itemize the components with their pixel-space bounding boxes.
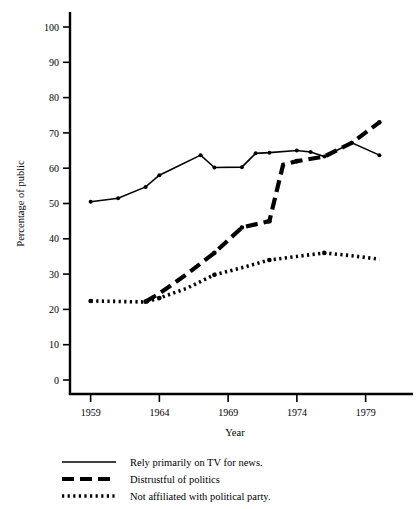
series-2 bbox=[143, 120, 381, 304]
legend-item: Not affiliated with political party. bbox=[62, 491, 271, 502]
legend-item: Rely primarily on TV for news. bbox=[62, 457, 263, 468]
data-point bbox=[309, 150, 313, 154]
data-point bbox=[212, 251, 217, 256]
data-point bbox=[157, 173, 161, 177]
legend-label: Distrustful of politics bbox=[130, 474, 220, 485]
legend: Rely primarily on TV for news.Distrustfu… bbox=[62, 457, 271, 502]
y-tick-label: 20 bbox=[49, 304, 59, 315]
x-axis-title: Year bbox=[225, 427, 245, 438]
data-point bbox=[254, 151, 258, 155]
legend-label: Not affiliated with political party. bbox=[130, 491, 271, 502]
data-point bbox=[212, 165, 216, 169]
y-tick-label: 0 bbox=[54, 375, 59, 386]
line-chart: 0102030405060708090100195919641969197419… bbox=[0, 0, 418, 509]
x-tick-label: 1979 bbox=[356, 407, 376, 418]
y-tick-label: 100 bbox=[44, 22, 59, 33]
series-line bbox=[146, 122, 380, 301]
legend-label: Rely primarily on TV for news. bbox=[130, 457, 263, 468]
series-3 bbox=[88, 251, 379, 304]
data-point bbox=[377, 120, 382, 125]
y-tick-label: 90 bbox=[49, 57, 59, 68]
data-point bbox=[267, 219, 272, 224]
data-point bbox=[144, 185, 148, 189]
data-point bbox=[89, 200, 93, 204]
data-point bbox=[267, 151, 271, 155]
x-tick-label: 1974 bbox=[287, 407, 307, 418]
y-tick-label: 60 bbox=[49, 163, 59, 174]
chart-figure: 0102030405060708090100195919641969197419… bbox=[0, 0, 418, 509]
y-tick-label: 40 bbox=[49, 233, 59, 244]
y-tick-label: 50 bbox=[49, 198, 59, 209]
data-point bbox=[295, 149, 299, 153]
y-tick-label: 10 bbox=[49, 339, 59, 350]
x-tick-label: 1969 bbox=[218, 407, 238, 418]
x-tick-label: 1964 bbox=[149, 407, 169, 418]
data-point bbox=[322, 251, 327, 256]
y-axis-title: Percentage of public bbox=[15, 160, 26, 247]
data-point bbox=[199, 153, 203, 157]
y-axis-ticks: 0102030405060708090100 bbox=[44, 22, 70, 386]
data-point bbox=[267, 258, 272, 263]
y-tick-label: 80 bbox=[49, 92, 59, 103]
data-point bbox=[240, 165, 244, 169]
data-point bbox=[157, 296, 162, 301]
y-tick-label: 70 bbox=[49, 128, 59, 139]
x-tick-label: 1959 bbox=[81, 407, 101, 418]
data-point bbox=[377, 153, 381, 157]
data-point bbox=[240, 225, 245, 230]
data-point bbox=[88, 299, 93, 304]
legend-item: Distrustful of politics bbox=[62, 474, 220, 485]
series-1 bbox=[89, 141, 382, 204]
y-tick-label: 30 bbox=[49, 269, 59, 280]
data-point bbox=[212, 273, 217, 278]
data-point bbox=[295, 159, 300, 164]
data-point bbox=[116, 196, 120, 200]
series-line bbox=[91, 253, 380, 302]
x-axis-ticks: 19591964196919741979 bbox=[81, 394, 376, 418]
